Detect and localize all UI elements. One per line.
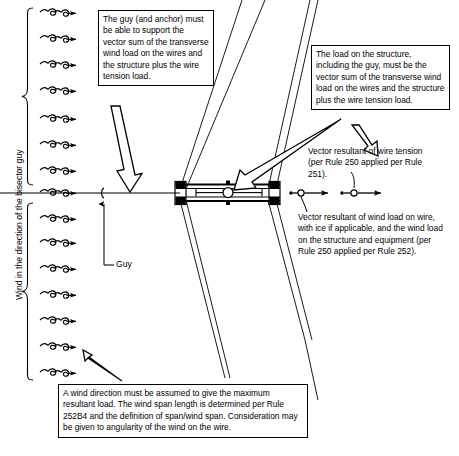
resultant-wind-load-vector [289,190,328,196]
wind-load-leader [301,197,307,212]
wind-direction-callout: A wind direction must be assumed to give… [58,384,308,438]
center-pole [223,188,233,198]
guy-leader [104,204,114,265]
h-frame-structure-plan-view [175,181,280,206]
pole-right [270,182,279,204]
guy-anchor-callout: The guy (and anchor) must be able to sup… [98,10,214,86]
guy-line [100,188,180,198]
guy-label: Guy [116,259,132,269]
wind-load-annotation: Vector resultant of wind load on wire, w… [298,212,450,258]
wind-direction-callout-leader [83,350,122,381]
resultant-wire-tension-vector [340,190,381,196]
wind-direction-axis-label: Wind in the direction of the bisector gu… [14,150,24,300]
wire-tension-annotation: Vector resultant of wire tension (per Ru… [308,146,426,180]
guy-anchor-callout-arrow [111,106,142,192]
diagram-canvas: Wind in the direction of the bisector gu… [0,0,459,456]
structure-load-callout: The load on the structure, including the… [311,45,450,110]
